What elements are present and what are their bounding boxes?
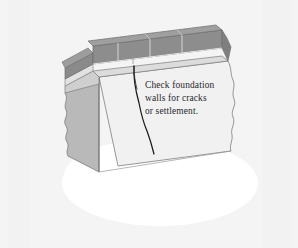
callout-line-3: or settlement. <box>145 106 198 116</box>
foundation-wall-illustration: Check foundation walls for cracks or set… <box>0 0 298 248</box>
paper-band-left <box>8 0 30 248</box>
callout-line-2: walls for cracks <box>145 93 207 103</box>
illustration-frame: Check foundation walls for cracks or set… <box>0 0 298 248</box>
callout-line-1: Check foundation <box>145 80 214 90</box>
paper-band-right <box>262 0 292 248</box>
